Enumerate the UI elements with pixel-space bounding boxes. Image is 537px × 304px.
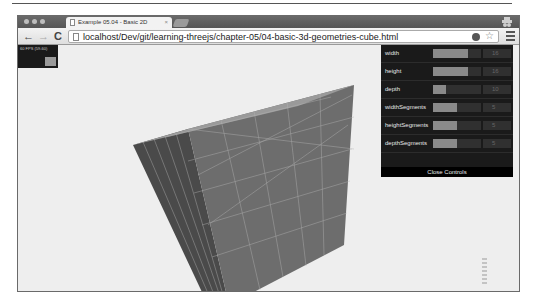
width-segments-input[interactable]: 5 <box>483 103 511 112</box>
fps-stats[interactable]: 60 FPS (59-60) <box>18 45 58 68</box>
control-label: depth <box>385 86 400 92</box>
control-width-segments: widthSegments 5 <box>381 99 513 117</box>
height-segments-slider[interactable] <box>433 121 481 130</box>
control-height-segments: heightSegments 5 <box>381 117 513 135</box>
width-slider[interactable] <box>433 49 481 58</box>
control-label: width <box>385 50 399 56</box>
menu-icon[interactable] <box>506 31 515 43</box>
close-controls-button[interactable]: Close Controls <box>381 167 513 177</box>
fps-graph <box>45 57 56 66</box>
control-width: width 16 <box>381 45 513 63</box>
control-depth-segments: depthSegments 5 <box>381 135 513 153</box>
height-segments-input[interactable]: 5 <box>483 121 511 130</box>
control-label: height <box>385 68 401 74</box>
incognito-profile-icon[interactable] <box>501 16 513 28</box>
address-bar[interactable]: localhost/Dev/git/learning-threejs/chapt… <box>68 30 499 43</box>
reload-button[interactable]: C <box>54 30 62 42</box>
back-button[interactable]: ← <box>23 30 34 42</box>
control-depth: depth 10 <box>381 81 513 99</box>
tab-close-icon[interactable]: × <box>164 17 168 28</box>
width-segments-slider[interactable] <box>433 103 481 112</box>
control-height: height 16 <box>381 63 513 81</box>
control-label: widthSegments <box>385 104 426 110</box>
height-input[interactable]: 16 <box>483 67 511 76</box>
minimize-window-button[interactable] <box>32 19 37 24</box>
tab-title: Example 05.04 - Basic 2D <box>78 19 147 25</box>
tab-bar: Example 05.04 - Basic 2D × <box>18 16 519 28</box>
depth-segments-slider[interactable] <box>433 139 481 148</box>
width-input[interactable]: 16 <box>483 49 511 58</box>
fps-text: 60 FPS (59-60) <box>20 46 47 51</box>
height-slider[interactable] <box>433 67 481 76</box>
url-text[interactable]: localhost/Dev/git/learning-threejs/chapt… <box>83 31 398 43</box>
page-rule <box>12 3 512 4</box>
browser-toolbar: ← → C localhost/Dev/git/learning-threejs… <box>18 28 519 45</box>
depth-segments-input[interactable]: 5 <box>483 139 511 148</box>
zoom-window-button[interactable] <box>40 19 45 24</box>
new-tab-button[interactable] <box>173 19 190 27</box>
control-label: heightSegments <box>385 122 428 128</box>
axis-helper <box>482 258 487 284</box>
browser-tab[interactable]: Example 05.04 - Basic 2D × <box>66 17 172 28</box>
page-icon <box>73 33 79 41</box>
control-label: depthSegments <box>385 140 427 146</box>
bookmark-star-icon[interactable]: ☆ <box>485 30 494 42</box>
close-window-button[interactable] <box>24 19 29 24</box>
extension-icon[interactable] <box>472 33 480 41</box>
browser-window: Example 05.04 - Basic 2D × ← → C localho… <box>17 15 520 292</box>
forward-button[interactable]: → <box>38 30 49 42</box>
webgl-canvas[interactable]: 60 FPS (59-60) width 16 height 16 depth … <box>18 45 519 292</box>
controls-panel: width 16 height 16 depth 10 widthSegment… <box>381 45 513 177</box>
depth-input[interactable]: 10 <box>483 85 511 94</box>
document-icon <box>70 19 75 26</box>
depth-slider[interactable] <box>433 85 481 94</box>
